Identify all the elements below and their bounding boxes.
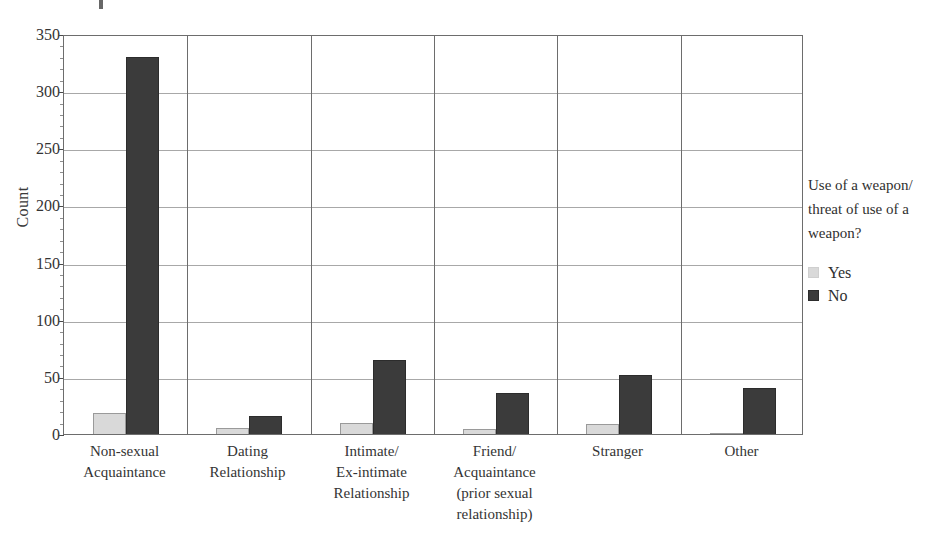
x-axis-category-label-line: Acquaintance — [433, 462, 556, 483]
bar-group — [64, 36, 187, 434]
bar-group — [187, 36, 310, 434]
x-axis-category-label-line: Ex-intimate — [310, 462, 433, 483]
y-axis-tick-label: 50 — [4, 369, 60, 387]
legend-title: Use of a weapon/ threat of use of a weap… — [808, 173, 936, 245]
x-axis-category-label-line: relationship) — [433, 504, 556, 525]
bar-no — [743, 388, 776, 434]
x-axis-category-label-line: Relationship — [310, 483, 433, 504]
x-axis-category-label-line: (prior sexual — [433, 483, 556, 504]
bar-no — [249, 416, 282, 434]
legend-title-line-3: weapon? — [808, 221, 936, 245]
bar-yes — [586, 424, 619, 434]
bar-yes — [216, 428, 249, 434]
legend-item[interactable]: Yes — [808, 261, 936, 284]
y-axis-major-tick — [58, 435, 64, 436]
x-axis-category-label: Other — [680, 441, 803, 462]
x-axis-category-label-line: Dating — [186, 441, 309, 462]
bar-yes — [463, 429, 496, 434]
bar-no — [619, 375, 652, 434]
legend-item-label: No — [828, 286, 848, 306]
bar-group — [557, 36, 680, 434]
y-axis-tick-label: 200 — [4, 197, 60, 215]
plot-area — [63, 35, 803, 435]
x-axis-category-labels: Non-sexualAcquaintanceDatingRelationship… — [63, 441, 803, 546]
cropped-title-descender — [99, 0, 103, 9]
bar-yes — [340, 423, 373, 434]
y-axis-tick-label: 0 — [4, 426, 60, 444]
x-axis-category-label-line: Relationship — [186, 462, 309, 483]
y-axis-tick-labels: 050100150200250300350 — [0, 0, 60, 548]
bar-chart-figure: Count 050100150200250300350 Non-sexualAc… — [0, 0, 938, 548]
x-axis-category-label-line: Stranger — [556, 441, 679, 462]
y-axis-tick-label: 150 — [4, 255, 60, 273]
x-axis-category-label-line: Non-sexual — [63, 441, 186, 462]
bar-group — [434, 36, 557, 434]
bar-no — [373, 360, 406, 434]
y-axis-tick-label: 250 — [4, 140, 60, 158]
legend-title-line-1: Use of a weapon/ — [808, 173, 936, 197]
x-axis-category-label: Intimate/Ex-intimateRelationship — [310, 441, 433, 504]
x-axis-category-label: Stranger — [556, 441, 679, 462]
legend-item[interactable]: No — [808, 284, 936, 307]
bar-no — [496, 393, 529, 434]
x-axis-category-label: DatingRelationship — [186, 441, 309, 483]
y-axis-tick-label: 100 — [4, 312, 60, 330]
bar-yes — [93, 413, 126, 434]
x-axis-category-label-line: Intimate/ — [310, 441, 433, 462]
legend-swatch-no — [808, 290, 819, 301]
bar-group — [311, 36, 434, 434]
bar-no — [126, 57, 159, 434]
legend-item-label: Yes — [828, 263, 851, 283]
y-axis-tick-label: 350 — [4, 26, 60, 44]
x-axis-category-label: Friend/Acquaintance(prior sexualrelation… — [433, 441, 556, 525]
x-axis-category-label-line: Other — [680, 441, 803, 462]
legend: Use of a weapon/ threat of use of a weap… — [808, 173, 936, 307]
x-axis-category-label-line: Friend/ — [433, 441, 556, 462]
legend-items: YesNo — [808, 261, 936, 307]
y-axis-tick-label: 300 — [4, 83, 60, 101]
x-axis-category-label-line: Acquaintance — [63, 462, 186, 483]
bar-group — [681, 36, 804, 434]
legend-title-line-2: threat of use of a — [808, 197, 936, 221]
bar-yes — [710, 433, 743, 434]
legend-swatch-yes — [808, 267, 819, 278]
x-axis-category-label: Non-sexualAcquaintance — [63, 441, 186, 483]
